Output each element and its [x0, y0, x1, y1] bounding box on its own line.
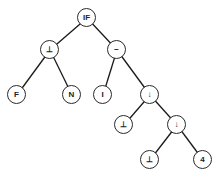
node-n: N — [62, 85, 81, 104]
node-down-arrow-2: ↓ — [167, 115, 186, 134]
node-down-arrow: ↓ — [140, 85, 159, 104]
node-minus: − — [107, 40, 126, 59]
node-bottom-low: ⊥ — [140, 150, 159, 169]
node-if: IF — [77, 8, 96, 27]
node-bottom-mid: ⊥ — [114, 115, 133, 134]
node-bottom-left: ⊥ — [40, 40, 59, 59]
node-i: I — [93, 85, 112, 104]
node-f: F — [7, 85, 26, 104]
node-four: 4 — [193, 150, 212, 169]
